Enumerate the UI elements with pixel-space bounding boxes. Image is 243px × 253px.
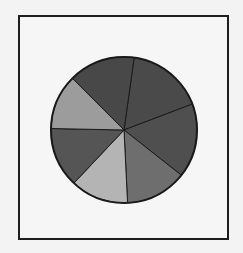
pie-chart	[0, 0, 243, 253]
